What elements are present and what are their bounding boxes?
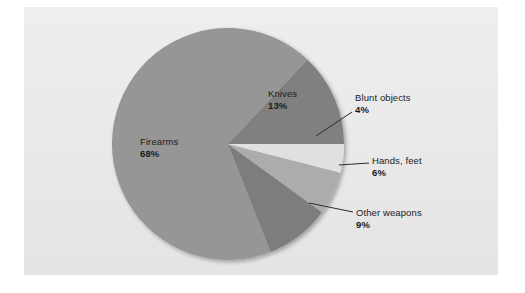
- slice-label-other-weapons-percent: 9%: [356, 219, 422, 231]
- slice-label-hands-feet: Hands, feet 6%: [372, 155, 422, 178]
- slice-label-blunt-objects-name: Blunt objects: [355, 92, 411, 104]
- slice-label-firearms: Firearms 68%: [140, 136, 178, 159]
- leader-line-hands-feet: [339, 163, 369, 165]
- slice-label-knives: Knives 13%: [268, 88, 297, 111]
- slice-label-hands-feet-percent: 6%: [372, 167, 422, 179]
- pie-chart-canvas: [0, 0, 525, 293]
- slice-label-other-weapons: Other weapons 9%: [356, 207, 422, 230]
- pie-chart-figure: Firearms 68% Knives 13% Blunt objects 4%…: [0, 0, 525, 293]
- slice-label-blunt-objects: Blunt objects 4%: [355, 92, 411, 115]
- slice-label-knives-percent: 13%: [268, 100, 297, 112]
- slice-label-blunt-objects-percent: 4%: [355, 104, 411, 116]
- slice-label-firearms-percent: 68%: [140, 148, 178, 160]
- slice-label-knives-name: Knives: [268, 88, 297, 100]
- slice-label-firearms-name: Firearms: [140, 136, 178, 148]
- slice-label-other-weapons-name: Other weapons: [356, 207, 422, 219]
- slice-label-hands-feet-name: Hands, feet: [372, 155, 422, 167]
